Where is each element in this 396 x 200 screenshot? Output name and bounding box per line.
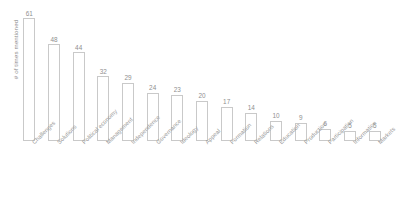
plot-area: 61484432292423201714109655: [17, 8, 387, 141]
bar-value-label: 23: [174, 86, 181, 93]
bar-group: 61: [23, 8, 35, 141]
bar: [122, 83, 134, 141]
bar-group: 20: [196, 8, 208, 141]
bar-value-label: 32: [100, 68, 107, 75]
bar-value-label: 44: [75, 44, 82, 51]
bar-value-label: 29: [124, 74, 131, 81]
bar: [23, 18, 35, 141]
bar-value-label: 10: [272, 112, 279, 119]
bar-value-label: 14: [248, 104, 255, 111]
bar-value-label: 9: [299, 114, 303, 121]
bar-value-label: 17: [223, 98, 230, 105]
bar: [196, 101, 208, 141]
x-axis-label-group: ChallengesSolutionsPolitical economyMana…: [17, 141, 387, 200]
bar-group: 17: [221, 8, 233, 141]
bar: [221, 107, 233, 141]
bar-group: 44: [73, 8, 85, 141]
bar-value-label: 48: [50, 36, 57, 43]
bar-value-label: 20: [198, 92, 205, 99]
bar-group: 10: [270, 8, 282, 141]
bar-value-label: 24: [149, 84, 156, 91]
bar-value-label: 61: [26, 10, 33, 17]
